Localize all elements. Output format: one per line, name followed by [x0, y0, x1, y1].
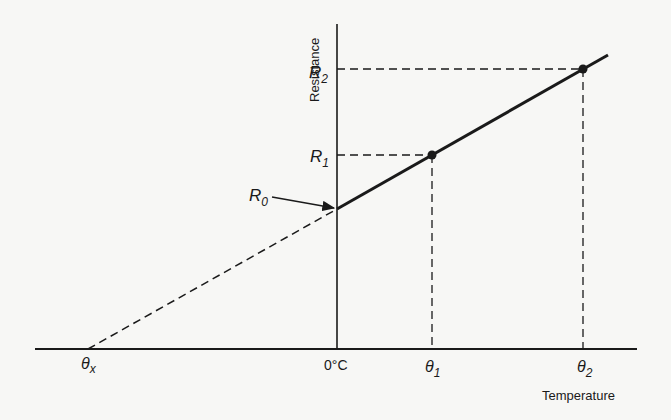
theta-2-label: θ2 — [577, 358, 593, 380]
theta-x-label: θx — [81, 355, 97, 376]
resistance-temperature-diagram: Resistance R2 R1 R0 θx 0°C θ1 θ2 Tempera… — [0, 0, 671, 420]
point-1 — [428, 151, 437, 160]
origin-label: 0°C — [324, 357, 348, 373]
theta-1-label: θ1 — [425, 358, 440, 380]
r1-label: R1 — [310, 147, 329, 170]
characteristic-line — [337, 55, 608, 209]
extrapolation-line — [88, 209, 337, 349]
r0-label: R0 — [249, 186, 268, 209]
point-2 — [579, 65, 588, 74]
x-axis-label: Temperature — [542, 388, 615, 403]
r0-arrow-icon — [272, 197, 334, 208]
